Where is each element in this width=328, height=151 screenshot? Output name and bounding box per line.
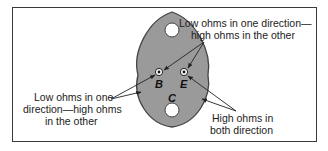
mounting-hole-bottom — [165, 103, 179, 117]
collector-label: C — [168, 92, 177, 104]
annotation-left-line2: direction—high ohms — [23, 103, 122, 115]
annotation-top-line1: Low ohms in one direction— — [179, 17, 312, 29]
mounting-hole-top — [165, 23, 179, 37]
annotation-right-line2: both direction — [210, 124, 273, 136]
arrow-to-case-right — [202, 99, 236, 111]
annotation-right-line1: High ohms in — [212, 112, 273, 124]
transistor-diagram: B E C Low ohms in one direction— high oh… — [0, 0, 328, 151]
emitter-label: E — [180, 78, 188, 90]
annotation-top-line2: high ohms in the other — [191, 29, 295, 41]
emitter-pin — [180, 68, 187, 75]
arrow-to-case-left — [111, 92, 141, 99]
base-pin — [155, 68, 162, 75]
annotation-left-line1: Low ohms in one — [34, 91, 114, 103]
base-label: B — [155, 78, 163, 90]
annotation-left-line3: in the other — [45, 115, 98, 127]
